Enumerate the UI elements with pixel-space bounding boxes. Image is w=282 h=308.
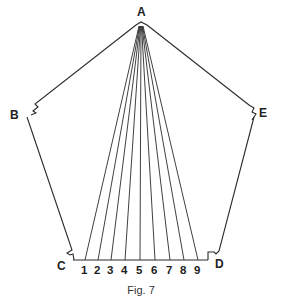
ray-5 [140, 26, 141, 260]
pentagon-construction-diagram: A B C D E 1 2 3 4 5 6 7 8 9 [0, 0, 282, 308]
division-label-6: 6 [151, 264, 157, 276]
division-label-4: 4 [121, 264, 128, 276]
ray-group [85, 26, 198, 260]
division-labels: 1 2 3 4 5 6 7 8 9 [81, 264, 200, 276]
apex-joint [136, 22, 147, 25]
edge-d-e [208, 117, 254, 260]
figure-caption: Fig. 7 [0, 284, 282, 296]
vertex-label-a: A [137, 5, 146, 19]
ray-7 [142, 26, 170, 260]
ray-9 [143, 26, 198, 260]
vertex-label-d: D [215, 257, 224, 271]
edge-e-a [147, 25, 256, 120]
edge-b-c [27, 117, 74, 260]
vertex-label-b: B [10, 108, 19, 122]
vertex-label-e: E [259, 106, 267, 120]
ray-3 [111, 26, 140, 260]
ray-2 [98, 26, 140, 260]
division-label-2: 2 [94, 264, 100, 276]
ray-8 [143, 26, 185, 260]
division-label-7: 7 [166, 264, 172, 276]
division-label-8: 8 [180, 264, 187, 276]
division-label-1: 1 [81, 264, 88, 276]
edge-a-b [31, 25, 136, 115]
ray-4 [125, 26, 141, 260]
vertex-label-c: C [57, 259, 66, 273]
division-label-3: 3 [107, 264, 113, 276]
division-label-9: 9 [194, 264, 200, 276]
ray-6 [142, 26, 156, 260]
ray-1 [85, 26, 139, 260]
division-label-5: 5 [136, 264, 143, 276]
